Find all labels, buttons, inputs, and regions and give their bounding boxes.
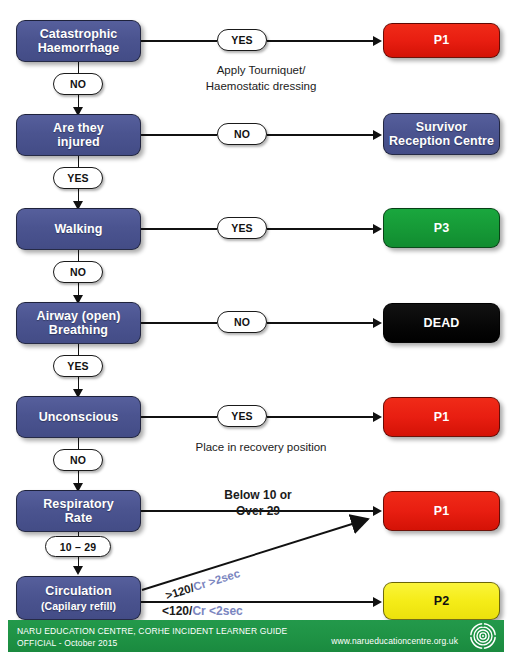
connector-haemorrhage-yes-left [141,40,217,42]
footer-text: NARU EDUCATION CENTRE, CORHE INCIDENT LE… [17,625,287,650]
decision-unconscious-yes[interactable]: YES [217,405,267,427]
node-are-they-injured[interactable]: Are they injured [16,114,141,156]
outcome-dead-label: DEAD [420,316,464,330]
outcome-p1-unconscious-label: P1 [430,410,454,424]
decision-haemorrhage-no[interactable]: NO [53,73,103,95]
arrowhead-haemorrhage-yes [373,36,382,46]
annotation-circulation-high-cr: Cr >2sec [192,567,242,593]
annotation-respiratory-line2: Over 29 [236,504,280,518]
node-circulation[interactable]: Circulation (Capilary refill) [16,576,141,620]
connector-injured-no-right [267,134,375,136]
node-walking-label: Walking [50,222,106,236]
connector-injured-yes-top [78,156,80,167]
outcome-p2-circulation[interactable]: P2 [383,582,500,620]
connector-walking-yes-right [267,228,375,230]
connector-airway-no-right [267,322,375,324]
decision-respiratory-range[interactable]: 10 – 29 [45,536,111,557]
outcome-survivor-reception-centre[interactable]: Survivor Reception Centre [383,113,500,155]
annotation-circulation-high: >120/Cr >2sec [164,566,242,604]
node-catastrophic-haemorrhage[interactable]: Catastrophic Haemorrhage [16,20,141,62]
node-respiratory-line1: Respiratory [43,497,114,511]
annotation-respiratory-line1: Below 10 or [224,488,291,502]
annotation-tourniquet-line1: Apply Tourniquet/ [217,64,306,76]
arrowhead-respiratory-range [73,566,83,575]
annotation-circulation-high-value: >120/ [164,582,195,602]
connector-airway-no-left [141,322,217,324]
node-airway-breathing[interactable]: Airway (open) Breathing [16,302,141,344]
arrowhead-circulation-low [373,597,382,607]
node-are-they-injured-line2: injured [57,135,99,149]
connector-airway-yes-top [78,344,80,355]
node-respiratory-line2: Rate [65,511,93,525]
node-walking[interactable]: Walking [16,208,141,250]
node-airway-line2: Breathing [49,323,108,337]
footer-line1: NARU EDUCATION CENTRE, CORHE INCIDENT LE… [17,626,287,636]
outcome-p1-respiratory-label: P1 [430,504,454,518]
connector-unconscious-no-top [78,438,80,449]
decision-haemorrhage-yes[interactable]: YES [217,29,267,51]
annotation-tourniquet-line2: Haemostatic dressing [206,80,317,92]
outcome-survivor-reception-line2: Reception Centre [389,134,494,148]
footer-line2: OFFICIAL - October 2015 [17,638,117,648]
outcome-p1-haemorrhage[interactable]: P1 [383,23,500,58]
outcome-survivor-reception-line1: Survivor [416,120,468,134]
arrowhead-injured-no [373,130,382,140]
outcome-p1-haemorrhage-label: P1 [430,33,454,47]
connector-injured-no-left [141,134,217,136]
node-are-they-injured-line1: Are they [53,121,104,135]
arrowhead-respiratory-p1 [373,506,382,516]
node-circulation-line1: Circulation [45,584,111,598]
outcome-dead[interactable]: DEAD [383,303,500,343]
node-unconscious-label: Unconscious [35,410,123,424]
outcome-p3-walking-label: P3 [430,221,454,235]
decision-walking-yes[interactable]: YES [217,217,267,239]
outcome-p3-walking[interactable]: P3 [383,208,500,248]
connector-unconscious-yes-right [267,416,375,418]
connector-haemorrhage-yes-right [267,40,375,42]
arrowhead-airway-no [373,318,382,328]
arrowhead-unconscious-yes [373,412,382,422]
node-circulation-line2: (Capilary refill) [41,600,116,612]
decision-airway-no[interactable]: NO [217,311,267,333]
node-catastrophic-haemorrhage-line1: Catastrophic [40,27,118,41]
decision-injured-yes[interactable]: YES [53,167,103,189]
footer-url[interactable]: www.narueducationcentre.org.uk [331,636,458,646]
annotation-respiratory-threshold: Below 10 or Over 29 [168,487,348,519]
annotation-circulation-low-cr: Cr <2sec [192,604,242,618]
arrowhead-walking-yes [373,224,382,234]
concentric-target-logo-icon [468,622,498,650]
decision-injured-no[interactable]: NO [217,123,267,145]
connector-walking-no-top [78,250,80,261]
annotation-circulation-low-value: <120/ [162,604,192,618]
triage-sieve-flowchart: Catastrophic Haemorrhage YES P1 Apply To… [0,0,512,659]
node-catastrophic-haemorrhage-line2: Haemorrhage [38,41,120,55]
node-unconscious[interactable]: Unconscious [16,396,141,438]
node-airway-line1: Airway (open) [37,309,121,323]
decision-airway-yes[interactable]: YES [53,355,103,377]
connector-haemorrhage-no-top [78,62,80,73]
outcome-p1-unconscious[interactable]: P1 [383,397,500,437]
outcome-p1-respiratory[interactable]: P1 [383,491,500,531]
connector-circulation-high [142,519,368,590]
decision-walking-no[interactable]: NO [53,261,103,283]
annotation-tourniquet: Apply Tourniquet/ Haemostatic dressing [146,63,376,94]
annotation-recovery-position: Place in recovery position [146,440,376,456]
connector-unconscious-yes-left [141,416,217,418]
decision-unconscious-no[interactable]: NO [53,449,103,471]
connector-walking-yes-left [141,228,217,230]
node-respiratory-rate[interactable]: Respiratory Rate [16,490,141,532]
annotation-circulation-low: <120/Cr <2sec [162,603,332,619]
outcome-p2-circulation-label: P2 [430,594,454,608]
footer-bar: NARU EDUCATION CENTRE, CORHE INCIDENT LE… [8,620,504,652]
